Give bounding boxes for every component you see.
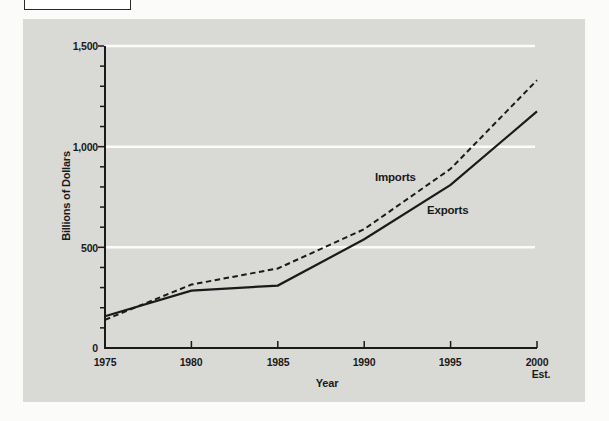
y-axis-title: Billions of Dollars xyxy=(60,141,72,251)
imports-line xyxy=(105,80,537,320)
x-tick-1995: 1995 xyxy=(428,356,472,368)
chart-panel xyxy=(23,19,585,402)
exports-line xyxy=(105,111,537,316)
axis-lines xyxy=(105,46,537,348)
chart-plot xyxy=(23,19,585,402)
y-tick-1500: 1,500 xyxy=(58,40,98,52)
gridlines xyxy=(105,46,535,247)
exports-series-label: Exports xyxy=(427,204,468,216)
y-axis-ticks xyxy=(98,46,104,328)
x-tick-1975: 1975 xyxy=(83,356,127,368)
cropped-caption-box xyxy=(24,0,131,10)
y-tick-0: 0 xyxy=(58,342,98,354)
x-tick-2000: 2000 xyxy=(515,356,559,368)
imports-series-label: Imports xyxy=(375,171,416,183)
figure-canvas: 1,500 1,000 500 0 1975 1980 1985 1990 19… xyxy=(0,0,609,421)
x-tick-1990: 1990 xyxy=(342,356,386,368)
x-axis-title: Year xyxy=(305,377,349,389)
x-tick-1985: 1985 xyxy=(256,356,300,368)
x-tick-2000-est-note: Est. xyxy=(519,368,563,380)
x-tick-1980: 1980 xyxy=(169,356,213,368)
x-axis-ticks xyxy=(191,341,537,348)
